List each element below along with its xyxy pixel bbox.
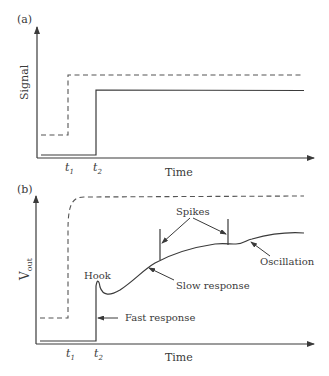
t1-label: t1 (66, 347, 75, 362)
oscillation-arrow (251, 242, 270, 256)
figure: (a) Signal Time t1 t2 (b) Vout Time t1 t… (0, 0, 329, 376)
slow-response-arrow (149, 268, 174, 280)
y-axis-label: Signal (18, 64, 31, 100)
t1-label: t1 (65, 161, 74, 176)
stimulus-dashed-line (41, 75, 304, 135)
response-solid-line (40, 233, 304, 341)
y-axis-label: Vout (18, 257, 34, 281)
panel-a: (a) Signal Time t1 t2 (17, 13, 314, 179)
x-axis-label: Time (165, 351, 193, 364)
panel-a-label: (a) (17, 13, 32, 26)
spike-2-arrow (193, 218, 226, 234)
hook-label: Hook (84, 270, 112, 281)
response-solid-line (41, 90, 304, 155)
slow-response-label: Slow response (176, 280, 250, 291)
t2-label: t2 (93, 161, 102, 176)
oscillation-label: Oscillation (260, 256, 315, 267)
panel-b: (b) Vout Time t1 t2 Hook Fast response S… (17, 183, 315, 364)
spike-1-arrow (162, 218, 190, 243)
panel-b-label: (b) (17, 183, 33, 196)
spikes-label: Spikes (176, 206, 210, 217)
fast-response-label: Fast response (125, 312, 195, 323)
x-axis-label: Time (165, 166, 193, 179)
t2-label: t2 (94, 347, 103, 362)
